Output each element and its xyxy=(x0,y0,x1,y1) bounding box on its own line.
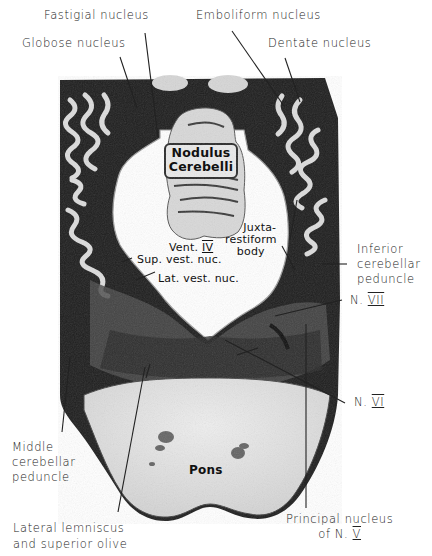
label-fastigial-nucleus: Fastigial nucleus xyxy=(44,8,149,22)
label-line: peduncle xyxy=(357,272,421,287)
label-line: Inferior xyxy=(357,242,421,257)
label-lateral-lemniscus: Lateral lemniscus and superior olive xyxy=(13,520,127,552)
label-nodulus-cerebelli: Nodulus Cerebelli xyxy=(168,146,234,174)
label-sup-vest-nuc: Sup. vest. nuc. xyxy=(137,253,222,266)
roman-numeral: V xyxy=(353,527,361,541)
label-inferior-cerebellar-peduncle: Inferior cerebellar peduncle xyxy=(357,242,421,287)
label-principal-nucleus-v: Principal nucleus of N. V xyxy=(286,512,393,542)
label-n7: N. VII xyxy=(350,293,384,307)
label-line: Nodulus xyxy=(168,146,234,160)
label-pons: Pons xyxy=(189,463,223,477)
label-line: body xyxy=(225,246,277,258)
label-line: of N. V xyxy=(286,527,393,542)
texture-overlay xyxy=(58,76,342,524)
label-line: and superior olive xyxy=(13,536,127,552)
label-line: Lateral lemniscus xyxy=(13,520,127,536)
roman-numeral: VII xyxy=(368,293,384,307)
label-n6: N. VI xyxy=(354,395,384,409)
label-line: peduncle xyxy=(12,470,76,485)
label-line: cerebellar xyxy=(12,455,76,470)
label-line: Principal nucleus xyxy=(286,512,393,527)
label-emboliform-nucleus: Emboliform nucleus xyxy=(196,8,321,22)
label-line: Cerebelli xyxy=(168,160,234,174)
label-line: Middle xyxy=(12,440,76,455)
label-dentate-nucleus: Dentate nucleus xyxy=(268,36,371,50)
label-line: cerebellar xyxy=(357,257,421,272)
label-prefix: N. xyxy=(350,293,363,307)
label-juxtarestiform-body: Juxta- restiform body xyxy=(225,222,277,258)
label-lat-vest-nuc: Lat. vest. nuc. xyxy=(158,272,239,285)
label-middle-cerebellar-peduncle: Middle cerebellar peduncle xyxy=(12,440,76,485)
label-prefix: N. xyxy=(354,395,367,409)
roman-numeral: VI xyxy=(372,395,384,409)
label-prefix: of N. xyxy=(318,527,348,541)
label-globose-nucleus: Globose nucleus xyxy=(22,36,126,50)
